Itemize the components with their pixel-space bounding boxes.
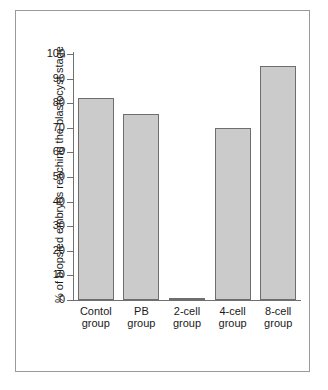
y-axis-tick-label: 80 [41,97,65,108]
bar [260,66,296,300]
x-axis-tick-label: PBgroup [119,305,165,329]
bar [215,128,251,300]
x-axis-tick-label-line: group [119,317,165,329]
y-axis-tick-label: 10 [41,269,65,280]
y-axis-tick-label: 60 [41,146,65,157]
y-axis-tick-label: 0 [41,294,65,305]
y-axis-tick-label: 40 [41,196,65,207]
x-axis-tick-label-line: group [73,317,119,329]
x-axis-tick-label-line: group [164,317,210,329]
bar [123,114,159,300]
x-axis-tick-label-line: PB [119,305,165,317]
x-axis-tick-label: Contolgroup [73,305,119,329]
y-axis-tick-label: 20 [41,245,65,256]
x-axis-tick-label-line: group [210,317,256,329]
x-axis-tick-label-line: 8-cell [255,305,301,317]
y-axis-tick-label: 100 [41,48,65,59]
y-axis-tick-label: 90 [41,73,65,84]
x-axis-tick-label-line: 4-cell [210,305,256,317]
bar-chart-plot-area: % of biopsied embryos reaching the blast… [0,0,328,390]
x-axis-tick-label-line: 2-cell [164,305,210,317]
x-axis-line [73,300,301,301]
y-axis-line [73,52,74,301]
x-axis-tick-label: 8-cellgroup [255,305,301,329]
y-axis-tick-labels: 1009080706050403020100 [39,0,65,390]
y-axis-tick-label: 70 [41,122,65,133]
bar [169,298,205,300]
bar [78,98,114,300]
y-axis-title-container: % of biopsied embryos reaching the blast… [22,0,40,390]
x-axis-tick-label-line: Contol [73,305,119,317]
x-axis-tick-label: 4-cellgroup [210,305,256,329]
x-axis-tick-label-line: group [255,317,301,329]
y-axis-tick-label: 30 [41,220,65,231]
x-axis-tick-label: 2-cellgroup [164,305,210,329]
y-axis-tick-label: 50 [41,171,65,182]
